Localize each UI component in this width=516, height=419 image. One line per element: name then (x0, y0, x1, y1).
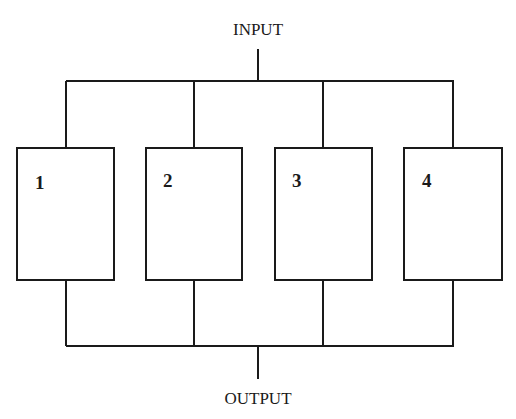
block-2-label: 2 (163, 170, 173, 192)
block-4-label: 4 (422, 170, 432, 192)
block-2 (146, 148, 242, 280)
block-4 (404, 148, 502, 280)
block-3-label: 3 (292, 170, 302, 192)
output-label: OUTPUT (198, 389, 318, 409)
parallel-diagram (0, 0, 516, 419)
block-1-label: 1 (35, 172, 45, 194)
block-3 (275, 148, 372, 280)
block-1 (17, 148, 114, 280)
input-label: INPUT (198, 20, 318, 40)
